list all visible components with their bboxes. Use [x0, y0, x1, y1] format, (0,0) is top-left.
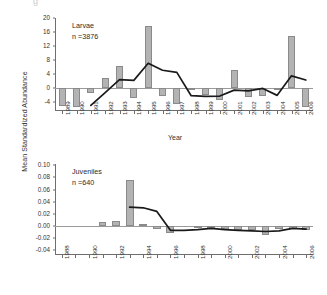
larvae-x-tick-mark — [62, 111, 63, 114]
juveniles-x-tick-mark — [265, 255, 266, 258]
figure-root: g Mean Standardized Abundance -404812162… — [0, 0, 327, 295]
juveniles-x-tick-mark — [238, 255, 239, 258]
juveniles-x-tick-mark — [157, 255, 158, 258]
larvae-x-tick-mark — [191, 111, 192, 114]
juveniles-x-tick-mark — [293, 255, 294, 258]
larvae-y-tick-label: 20 — [43, 15, 50, 21]
larvae-annotation-title: Larvae — [72, 21, 94, 30]
juveniles-x-tick-mark — [103, 255, 104, 258]
larvae-x-axis-label: Year — [168, 134, 182, 141]
juveniles-x-tick-mark — [279, 255, 280, 258]
larvae-y-tick-label: 16 — [43, 29, 50, 35]
juveniles-x-tick-mark — [75, 255, 76, 258]
juveniles-y-tick-label: -0.02 — [36, 235, 50, 241]
panel-larvae: -404812162019891990199119921993199419951… — [0, 0, 327, 150]
juveniles-x-tick-mark — [211, 255, 212, 258]
larvae-x-tick-mark — [234, 111, 235, 114]
larvae-y-tick-label: 12 — [43, 43, 50, 49]
juveniles-y-tick-label: 0.04 — [38, 199, 50, 205]
juveniles-x-tick-mark — [184, 255, 185, 258]
larvae-y-tick-label: 0 — [46, 85, 50, 91]
juveniles-y-tick-label: 0.06 — [38, 186, 50, 192]
juveniles-y-tick-label: 0.00 — [38, 223, 50, 229]
juveniles-y-tick-label: 0.08 — [38, 174, 50, 180]
larvae-annotation-n: n =3876 — [72, 32, 98, 41]
juveniles-y-tick-label: -0.04 — [36, 247, 50, 253]
larvae-y-tick-label: -4 — [44, 98, 50, 104]
juveniles-y-tick-label: 0.02 — [38, 211, 50, 217]
larvae-x-tick-mark — [277, 111, 278, 114]
juveniles-annotation-n: n =640 — [72, 178, 94, 187]
juveniles-x-tick-mark — [116, 255, 117, 258]
juveniles-x-tick-mark — [130, 255, 131, 258]
larvae-x-tick-mark — [148, 111, 149, 114]
larvae-x-tick-mark — [105, 111, 106, 114]
juveniles-x-tick-mark — [89, 255, 90, 258]
larvae-y-tick-label: 8 — [46, 57, 50, 63]
juveniles-annotation-title: Juveniles — [72, 167, 102, 176]
juveniles-y-tick-label: 0.10 — [38, 162, 50, 168]
panel-juveniles: -0.04-0.020.000.020.040.060.080.10198819… — [0, 150, 327, 295]
larvae-y-tick-label: 4 — [46, 71, 50, 77]
